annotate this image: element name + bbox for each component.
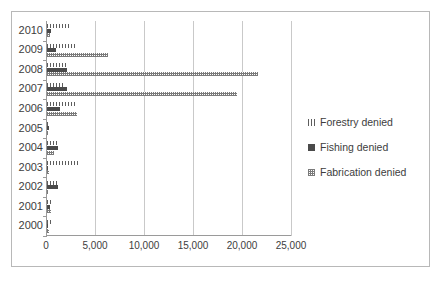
bar-fishing-2008 [47,68,67,72]
x-axis-labels: 05,00010,00015,00020,00025,000 [46,240,291,254]
legend-entry-forestry: Forestry denied [308,112,428,132]
legend-label: Fabrication denied [320,166,406,178]
chart-frame: 2010200920082007200620052004200320022001… [11,11,430,267]
gridline-25000 [291,21,292,236]
x-axis-label-0: 0 [43,240,49,252]
bar-forestry-2002 [47,181,57,185]
legend-swatch-fishing-icon [308,144,315,151]
bar-fabrication-2005 [47,131,48,135]
bar-fabrication-2001 [47,209,51,213]
bar-fishing-2010 [47,29,51,33]
y-axis-label-2008: 2008 [19,64,43,75]
y-axis-labels: 2010200920082007200620052004200320022001… [12,21,43,236]
bar-forestry-2006 [47,102,75,106]
bar-fishing-2001 [47,205,50,209]
bar-fabrication-2010 [47,33,50,37]
bar-fishing-2004 [47,146,58,150]
bar-group [47,158,291,178]
bar-forestry-2005 [47,122,49,126]
bar-fabrication-2000 [47,229,49,233]
bar-forestry-2001 [47,200,51,204]
y-axis-tick [43,236,47,237]
y-axis-label-2005: 2005 [19,123,43,134]
bar-fabrication-2007 [47,92,237,96]
x-axis-label-10000: 10,000 [129,240,160,252]
bar-fabrication-2003 [47,170,49,174]
bar-fishing-2002 [47,185,58,189]
bar-forestry-2004 [47,141,58,145]
bar-group [47,119,291,139]
bar-fishing-2007 [47,87,67,91]
bar-fishing-2000 [47,224,48,228]
y-axis-label-2009: 2009 [19,44,43,55]
x-axis-label-15000: 15,000 [178,240,209,252]
bar-fabrication-2004 [47,151,54,155]
y-axis-label-2000: 2000 [19,220,43,231]
bar-fabrication-2008 [47,72,258,76]
bar-forestry-2009 [47,44,76,48]
bar-forestry-2000 [47,220,53,224]
bar-group [47,177,291,197]
bar-fabrication-2009 [47,53,108,57]
y-axis-label-2007: 2007 [19,83,43,94]
bar-group [47,99,291,119]
y-axis-label-2001: 2001 [19,201,43,212]
x-axis-label-20000: 20,000 [227,240,258,252]
bar-fabrication-2002 [47,190,48,194]
legend-swatch-forestry-icon [308,119,315,126]
bar-group [47,21,291,41]
legend-entry-fabrication: Fabrication denied [308,162,428,182]
legend-label: Fishing denied [320,141,388,153]
bar-group [47,216,291,236]
y-axis-label-2010: 2010 [19,25,43,36]
bar-forestry-2007 [47,83,63,87]
bar-group [47,41,291,61]
bar-fishing-2006 [47,107,60,111]
plot-area [46,21,291,236]
y-axis-label-2006: 2006 [19,103,43,114]
bar-fishing-2009 [47,48,56,52]
x-axis-label-5000: 5,000 [82,240,107,252]
bar-group [47,138,291,158]
bar-group [47,60,291,80]
bar-fishing-2005 [47,126,49,130]
bar-fabrication-2006 [47,112,77,116]
legend-entry-fishing: Fishing denied [308,137,428,157]
y-axis-label-2003: 2003 [19,162,43,173]
bar-fishing-2003 [47,166,48,170]
bar-group [47,80,291,100]
legend-swatch-fabrication-icon [308,169,315,176]
legend-label: Forestry denied [320,116,393,128]
bar-forestry-2008 [47,63,68,67]
y-axis-label-2002: 2002 [19,181,43,192]
y-axis-label-2004: 2004 [19,142,43,153]
bar-forestry-2010 [47,24,70,28]
chart-legend: Forestry deniedFishing deniedFabrication… [308,112,428,187]
x-axis-label-25000: 25,000 [276,240,307,252]
bar-forestry-2003 [47,161,79,165]
bar-group [47,197,291,217]
